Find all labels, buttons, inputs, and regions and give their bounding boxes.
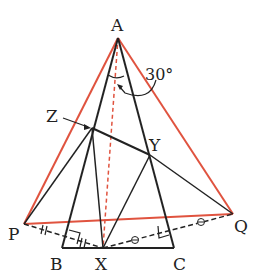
circle-mark-FQ: [198, 219, 205, 226]
segment-ZY: [92, 128, 150, 155]
label-Y: Y: [148, 135, 161, 155]
segment-AQ: [118, 38, 233, 214]
segment-AB: [62, 38, 118, 248]
label-B: B: [50, 254, 63, 274]
angle-label: 30°: [145, 65, 173, 84]
segment-AP: [24, 38, 118, 224]
label-Q: Q: [234, 216, 248, 236]
right-angle-mark-left: [69, 230, 80, 244]
label-A: A: [110, 15, 124, 35]
geometry-diagram: A 30° Z Y P Q B X C: [0, 0, 262, 279]
label-Z: Z: [46, 106, 58, 126]
circle-mark-XF: [132, 237, 139, 244]
label-X: X: [95, 254, 108, 274]
segment-XY: [103, 155, 150, 248]
double-tick-BX: [80, 238, 86, 248]
right-angle-mark-right: [158, 226, 169, 238]
label-P: P: [8, 224, 19, 244]
arrowhead-icon: [84, 124, 91, 130]
segment-ZX: [92, 128, 103, 248]
label-C: C: [173, 254, 186, 274]
